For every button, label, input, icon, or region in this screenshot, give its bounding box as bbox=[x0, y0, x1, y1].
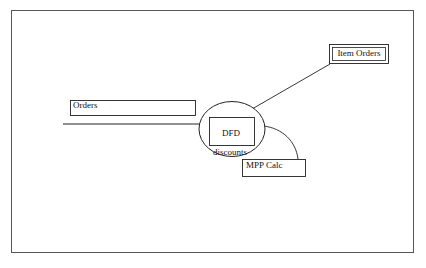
mpp-calc-label: MPP Calc bbox=[242, 159, 306, 177]
diagram-canvas: Orders DFD discounts Item Orders MPP Cal… bbox=[0, 0, 426, 268]
item-orders-entity-label: Item Orders bbox=[329, 44, 389, 64]
process-discounts-label: DFD discounts bbox=[210, 118, 255, 146]
process-discounts-label-line2: discounts bbox=[213, 148, 255, 158]
orders-store-label: Orders bbox=[70, 100, 196, 116]
process-discounts-label-line1: DFD bbox=[222, 128, 240, 138]
